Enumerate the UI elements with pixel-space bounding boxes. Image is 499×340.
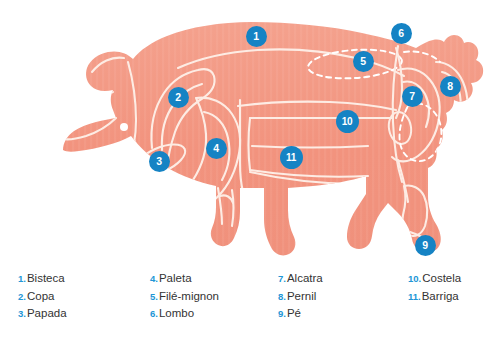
legend-number: 2. bbox=[18, 291, 26, 302]
legend-item-file-mignon[interactable]: 5.Filé-mignon bbox=[150, 288, 219, 306]
legend-label: Copa bbox=[27, 290, 55, 302]
legend-number: 10. bbox=[408, 273, 421, 284]
legend-label: Papada bbox=[27, 307, 67, 319]
pig-cuts-diagram: 1 2 3 4 5 6 7 8 9 10 11 bbox=[0, 0, 499, 264]
legend-number: 9. bbox=[278, 308, 286, 319]
legend-number: 5. bbox=[150, 291, 158, 302]
legend-label: Costela bbox=[422, 272, 461, 284]
cut-marker-10[interactable]: 10 bbox=[336, 110, 359, 133]
legend-label: Filé-mignon bbox=[159, 290, 219, 302]
legend-label: Pernil bbox=[287, 290, 316, 302]
legend-item-paleta[interactable]: 4.Paleta bbox=[150, 270, 219, 288]
pig-eye bbox=[120, 123, 128, 131]
pig-body-shape bbox=[63, 22, 483, 255]
legend-item-pernil[interactable]: 8.Pernil bbox=[278, 288, 323, 306]
legend-item-alcatra[interactable]: 7.Alcatra bbox=[278, 270, 323, 288]
cut-marker-6[interactable]: 6 bbox=[391, 23, 412, 44]
legend-item-barriga[interactable]: 11.Barriga bbox=[408, 288, 461, 306]
legend-column-3: 7.Alcatra 8.Pernil 9.Pé bbox=[278, 270, 323, 323]
cut-marker-1[interactable]: 1 bbox=[246, 26, 267, 47]
legend-column-4: 10.Costela 11.Barriga bbox=[408, 270, 461, 305]
legend-item-copa[interactable]: 2.Copa bbox=[18, 288, 67, 306]
legend-item-lombo[interactable]: 6.Lombo bbox=[150, 305, 219, 323]
cut-marker-7[interactable]: 7 bbox=[402, 86, 423, 107]
legend-number: 1. bbox=[18, 273, 26, 284]
cuts-legend: 1.Bisteca 2.Copa 3.Papada 4.Paleta 5.Fil… bbox=[0, 264, 499, 340]
legend-number: 3. bbox=[18, 308, 26, 319]
legend-number: 6. bbox=[150, 308, 158, 319]
legend-item-bisteca[interactable]: 1.Bisteca bbox=[18, 270, 67, 288]
cut-marker-4[interactable]: 4 bbox=[206, 138, 227, 159]
cut-marker-8[interactable]: 8 bbox=[440, 76, 461, 97]
legend-column-2: 4.Paleta 5.Filé-mignon 6.Lombo bbox=[150, 270, 219, 323]
legend-column-1: 1.Bisteca 2.Copa 3.Papada bbox=[18, 270, 67, 323]
legend-label: Bisteca bbox=[27, 272, 65, 284]
legend-item-papada[interactable]: 3.Papada bbox=[18, 305, 67, 323]
cut-marker-3[interactable]: 3 bbox=[149, 151, 170, 172]
legend-item-pe[interactable]: 9.Pé bbox=[278, 305, 323, 323]
legend-number: 7. bbox=[278, 273, 286, 284]
cut-marker-2[interactable]: 2 bbox=[168, 87, 189, 108]
legend-label: Alcatra bbox=[287, 272, 323, 284]
cut-marker-5[interactable]: 5 bbox=[353, 51, 374, 72]
legend-item-costela[interactable]: 10.Costela bbox=[408, 270, 461, 288]
legend-number: 11. bbox=[408, 291, 421, 302]
legend-number: 4. bbox=[150, 273, 158, 284]
legend-label: Lombo bbox=[159, 307, 194, 319]
cut-marker-9[interactable]: 9 bbox=[415, 235, 436, 256]
legend-label: Paleta bbox=[159, 272, 192, 284]
legend-label: Pé bbox=[287, 307, 301, 319]
cut-marker-11[interactable]: 11 bbox=[280, 146, 303, 169]
legend-number: 8. bbox=[278, 291, 286, 302]
legend-label: Barriga bbox=[422, 290, 459, 302]
